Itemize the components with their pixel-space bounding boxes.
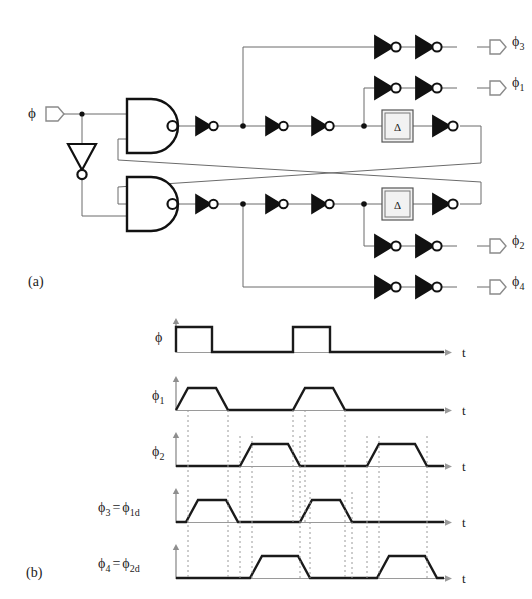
figure-svg: Δ Δ	[0, 0, 532, 599]
delay-symbol-bottom: Δ	[394, 199, 401, 211]
timing-label-phi3: ϕ3=ϕ1d	[98, 500, 140, 518]
junction-dot-top-1	[240, 123, 246, 129]
timing-label-phi: ϕ	[155, 330, 162, 346]
junction-dot-top-2	[361, 123, 367, 129]
schematic-input-label: ϕ	[28, 105, 36, 122]
delay-block-bottom: Δ	[382, 188, 413, 220]
nand-gate-2	[127, 177, 178, 231]
schematic-output-label-phi2: ϕ2	[512, 233, 524, 251]
timing-label-phi4: ϕ4=ϕ2d	[98, 556, 140, 574]
delay-symbol-top: Δ	[394, 121, 401, 133]
axis-label-t-phi1: t	[462, 403, 466, 418]
nand-gate-1	[127, 99, 178, 153]
schematic-output-label-phi3: ϕ3	[512, 34, 524, 52]
junction-dot-bot-2	[361, 201, 367, 207]
axis-label-t-phi2: t	[462, 459, 466, 474]
schematic-output-label-phi1: ϕ1	[512, 75, 524, 93]
axis-label-t-phi: t	[462, 345, 466, 360]
schematic-output-label-phi4: ϕ4	[512, 274, 524, 292]
timing-label-phi1: ϕ1	[152, 388, 164, 406]
delay-block-top: Δ	[382, 110, 413, 142]
junction-dot-bot-1	[240, 201, 246, 207]
axis-label-t-phi4: t	[462, 571, 466, 586]
axis-label-t-phi3: t	[462, 515, 466, 530]
figure-root: Δ Δ	[0, 0, 532, 599]
panel-label-b: (b)	[26, 565, 42, 581]
timing-label-phi2: ϕ2	[152, 444, 164, 462]
panel-label-a: (a)	[28, 274, 44, 290]
background	[0, 0, 532, 599]
junction-dot-input	[79, 111, 84, 116]
